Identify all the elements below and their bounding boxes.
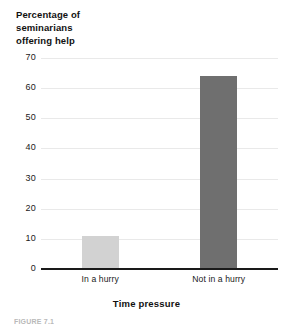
category-label: Not in a hurry xyxy=(159,274,279,284)
gridline xyxy=(41,58,278,59)
plot-area xyxy=(41,58,278,269)
y-tick-label: 0 xyxy=(14,264,36,273)
gridline xyxy=(41,148,278,149)
x-axis-line xyxy=(41,268,278,270)
bar-chart-figure: Percentage of seminarians offering help … xyxy=(0,0,293,326)
gridline xyxy=(41,179,278,180)
gridline xyxy=(41,239,278,240)
y-axis-title: Percentage of seminarians offering help xyxy=(16,8,80,47)
y-tick-label: 60 xyxy=(14,83,36,92)
y-tick-label: 20 xyxy=(14,204,36,213)
y-tick-label: 40 xyxy=(14,143,36,152)
category-label: In a hurry xyxy=(40,274,160,284)
bar-in-a-hurry[interactable] xyxy=(82,236,119,269)
figure-caption: FIGURE 7.1 xyxy=(14,318,54,326)
x-axis-title: Time pressure xyxy=(0,298,293,309)
y-tick-label: 10 xyxy=(14,234,36,243)
gridline xyxy=(41,118,278,119)
bar-not-in-a-hurry[interactable] xyxy=(200,76,237,269)
y-tick-label: 50 xyxy=(14,113,36,122)
y-tick-label: 30 xyxy=(14,174,36,183)
gridline xyxy=(41,88,278,89)
y-tick-label: 70 xyxy=(14,53,36,62)
gridline xyxy=(41,209,278,210)
